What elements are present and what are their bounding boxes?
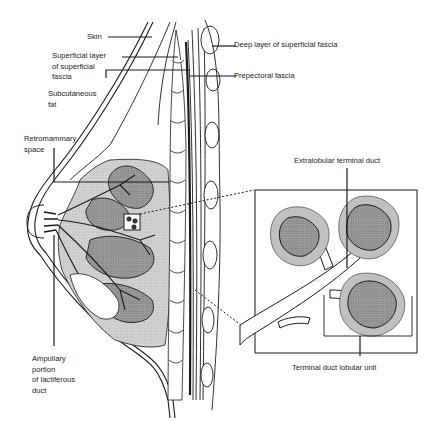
label-subcutaneous-fat: Subcutaneous fat [48, 89, 97, 110]
pectoral-muscle [186, 28, 205, 400]
label-deep-layer: Deep layer of superficial fascia [234, 40, 337, 51]
label-tdlu: Terminal duct lobular unit [292, 363, 376, 374]
label-prepectoral-fascia: Prepectoral fascia [234, 71, 295, 82]
nipple [27, 205, 58, 238]
lobule-top-left [270, 207, 329, 266]
breast-anatomy-diagram: Skin Superficial layer of superficial fa… [0, 0, 439, 422]
label-ampullary-portion: Ampullary portion of lactiferous duct [32, 354, 75, 396]
retromammary-fat [168, 30, 186, 400]
label-superficial-layer: Superficial layer of superficial fascia [52, 51, 106, 83]
lobule-highlight-box [124, 214, 140, 230]
label-skin: Skin [87, 32, 102, 43]
label-retromammary-space: Retromammary space [24, 134, 76, 155]
label-extralobular-duct: Extralobular terminal duct [294, 156, 380, 167]
